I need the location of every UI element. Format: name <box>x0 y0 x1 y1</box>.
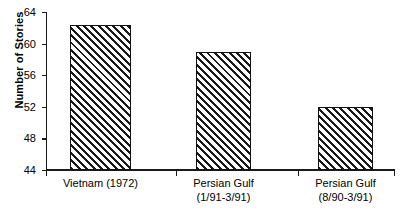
bar-chart: Number of Stories 444852566064 Vietnam (… <box>0 0 420 210</box>
y-tick-label: 44 <box>14 165 36 176</box>
x-tick-mark <box>176 171 177 176</box>
x-category-label-line2: (8/90-3/91) <box>276 190 416 204</box>
x-category-label: Vietnam (1972) <box>31 176 171 190</box>
plot-area <box>46 12 395 170</box>
y-tick-label: 64 <box>14 7 36 18</box>
y-tick-label: 60 <box>14 38 36 49</box>
y-tick-mark <box>42 138 47 139</box>
x-tick-mark <box>46 171 47 176</box>
y-tick-mark <box>42 12 47 13</box>
y-tick-label: 52 <box>14 101 36 112</box>
bar <box>196 52 251 171</box>
y-tick-label: 48 <box>14 133 36 144</box>
x-category-label-line2: (1/91-3/91) <box>154 190 294 204</box>
bar <box>70 25 131 170</box>
y-tick-mark <box>42 75 47 76</box>
x-tick-mark <box>298 171 299 176</box>
x-category-label-line1: Vietnam (1972) <box>63 177 138 189</box>
y-tick-label: 56 <box>14 70 36 81</box>
x-category-label-line1: Persian Gulf <box>193 177 254 189</box>
x-tick-mark <box>394 171 395 176</box>
y-axis-line <box>46 12 47 170</box>
x-category-label-line1: Persian Gulf <box>315 177 376 189</box>
y-tick-mark <box>42 107 47 108</box>
y-tick-mark <box>42 44 47 45</box>
x-category-label: Persian Gulf(8/90-3/91) <box>276 176 416 204</box>
bar <box>318 107 373 170</box>
x-category-label: Persian Gulf(1/91-3/91) <box>154 176 294 204</box>
